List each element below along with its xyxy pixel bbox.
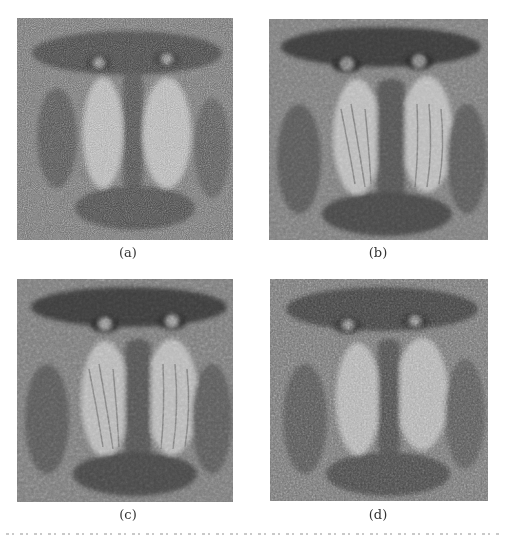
panel-label-d: (d) xyxy=(348,507,408,523)
panel-c xyxy=(17,279,233,502)
panel-label-a: (a) xyxy=(98,245,158,261)
panel-a xyxy=(17,18,233,240)
mandrill-image-c xyxy=(17,279,233,502)
panel-b xyxy=(269,19,488,240)
panel-d xyxy=(270,279,488,501)
mandrill-image-a xyxy=(17,18,233,240)
figure-caption-cutoff xyxy=(6,531,501,536)
mandrill-image-b xyxy=(269,19,488,240)
mandrill-image-d xyxy=(270,279,488,501)
panel-label-c: (c) xyxy=(98,507,158,523)
panel-label-b: (b) xyxy=(348,245,408,261)
